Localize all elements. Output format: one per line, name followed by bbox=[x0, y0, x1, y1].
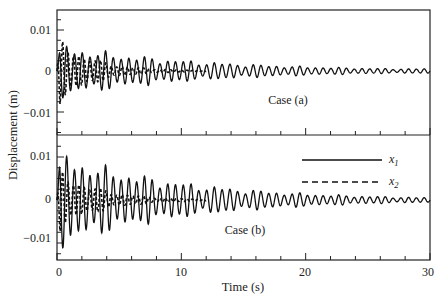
y-tick-label-upper-neg: −0.01 bbox=[23, 106, 51, 120]
case-b-label: Case (b) bbox=[225, 223, 265, 237]
x-tick-label-10: 10 bbox=[175, 265, 187, 279]
y-tick-label-lower-zero: 0 bbox=[45, 192, 51, 206]
y-tick-label-upper-zero: 0 bbox=[45, 64, 51, 78]
x-axis-title: Time (s) bbox=[222, 280, 264, 294]
y-tick-label-lower-neg: −0.01 bbox=[23, 231, 51, 245]
legend: x1 x2 bbox=[302, 152, 399, 190]
legend-label-x2: x2 bbox=[388, 174, 399, 190]
y-axis-title: Displacement (m) bbox=[6, 90, 20, 180]
y-tick-label-lower-pos: 0.01 bbox=[30, 149, 51, 163]
x-tick-label-20: 20 bbox=[299, 265, 311, 279]
x-tick-label-30: 30 bbox=[422, 265, 434, 279]
legend-label-x1: x1 bbox=[388, 152, 399, 168]
y-tick-label-upper-pos: 0.01 bbox=[30, 23, 51, 37]
x-tick-label-0: 0 bbox=[56, 265, 62, 279]
series-x1-case-a bbox=[57, 47, 430, 98]
data-series bbox=[57, 42, 430, 248]
chart-figure: 0.01 0 −0.01 0.01 0 −0.01 0 10 20 30 Tim… bbox=[0, 0, 444, 299]
case-a-label: Case (a) bbox=[268, 93, 308, 107]
